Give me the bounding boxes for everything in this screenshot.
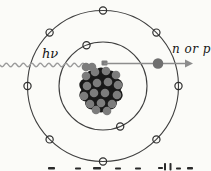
caption-fragment [115,168,121,170]
atom-photodisintegration-diagram: hν n or p [0,0,211,171]
gray-nucleon [112,71,121,80]
gray-nucleon [114,81,123,90]
caption-fragment [48,167,55,170]
caption-fragment [93,167,101,170]
gray-nucleon [93,79,102,88]
diagram-canvas: hν n or p [0,0,211,171]
photon-wave [0,63,87,67]
ejection-arrow [102,58,194,69]
gray-nucleon [90,89,99,98]
gray-nucleon [104,78,113,87]
gray-nucleon [113,91,122,100]
caption-fragment [75,168,81,170]
caption-fragment [176,168,181,170]
caption-fragment [187,167,193,170]
gray-nucleon [92,106,101,115]
gray-nucleon [108,100,117,109]
nucleus [79,63,122,116]
gray-nucleon [101,89,110,98]
gray-nucleon [102,67,111,76]
photon-wavy-line [0,63,87,67]
caption-top-fragments [48,163,193,171]
gray-nucleon [83,82,92,91]
caption-fragment [135,168,141,170]
gray-nucleon [103,107,112,116]
ejected-nucleon-dot [153,58,164,69]
arrowhead-icon [185,60,193,68]
gray-nucleon [88,63,97,72]
gray-nucleon [97,99,106,108]
gray-nucleon [82,72,91,81]
photon-label: hν [42,46,58,61]
ejected-nucleon-label: n or p [172,42,211,56]
gray-nucleon [80,92,89,101]
caption-fragment [164,163,166,171]
caption-fragment [158,167,163,169]
caption-fragment [170,163,172,171]
